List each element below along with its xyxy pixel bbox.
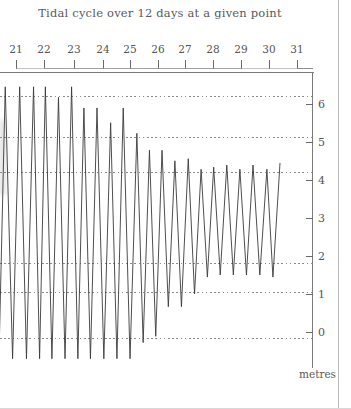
day-tick-24 (103, 60, 104, 69)
day-tick-30 (269, 60, 270, 69)
page-title: Tidal cycle over 12 days at a given poin… (0, 6, 320, 20)
y-label-5: 5 (318, 136, 325, 149)
day-label-30: 30 (262, 43, 275, 55)
day-span-rule (241, 68, 269, 69)
day-label-24: 24 (96, 43, 109, 55)
day-span-rule (130, 68, 158, 69)
y-label-3: 3 (318, 212, 325, 225)
day-span-rule (269, 68, 297, 69)
y-axis-caption: metres (299, 368, 336, 380)
day-label-26: 26 (151, 43, 164, 55)
day-span-rule (185, 68, 213, 69)
page-border-right (338, 0, 339, 409)
day-label-27: 27 (178, 43, 191, 55)
day-tick-23 (74, 60, 75, 69)
day-tick-26 (158, 60, 159, 69)
tide-curve (0, 72, 312, 368)
day-label-23: 23 (67, 43, 80, 55)
day-span-rule (158, 68, 185, 69)
day-tick-22 (44, 60, 45, 69)
y-label-2: 2 (318, 250, 325, 263)
day-label-22: 22 (37, 43, 50, 55)
day-span-rule (44, 68, 74, 69)
day-span-rule (103, 68, 130, 69)
tidal-chart-page: Tidal cycle over 12 days at a given poin… (0, 0, 351, 409)
day-tick-27 (185, 60, 186, 69)
day-span-rule-tail (297, 68, 313, 69)
day-tick-21 (16, 60, 17, 69)
y-label-6: 6 (318, 98, 325, 111)
day-label-28: 28 (206, 43, 219, 55)
day-tick-28 (213, 60, 214, 69)
day-label-25: 25 (123, 43, 136, 55)
day-label-21: 21 (9, 43, 22, 55)
y-label-1: 1 (318, 288, 325, 301)
day-span-rule (74, 68, 103, 69)
day-tick-25 (130, 60, 131, 69)
y-label-4: 4 (318, 174, 325, 187)
day-span-rule (16, 68, 44, 69)
day-span-rule (213, 68, 241, 69)
axis-vertical-line (312, 72, 313, 368)
day-tick-31 (297, 60, 298, 69)
y-label-0: 0 (318, 326, 325, 339)
day-label-31: 31 (290, 43, 303, 55)
day-tick-29 (241, 60, 242, 69)
day-label-29: 29 (234, 43, 247, 55)
